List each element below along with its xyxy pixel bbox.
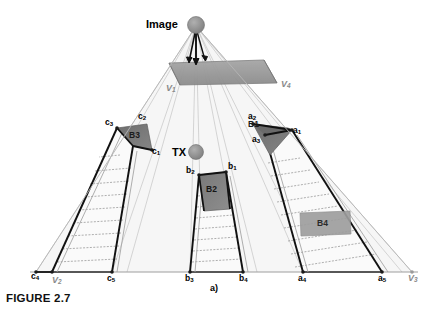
image-source-label: Image <box>146 19 178 30</box>
vertex-label-c4: c4 <box>31 272 39 281</box>
vertex-label-b2: b2 <box>186 166 195 175</box>
tx-node <box>189 145 204 160</box>
vertex-label-a3: a3 <box>252 135 260 144</box>
view-label-v2: V2 <box>52 276 62 286</box>
view-label-v3: V3 <box>408 274 418 284</box>
vertex-label-b4: b4 <box>239 274 248 283</box>
vertex-label-a4: a4 <box>298 274 306 283</box>
figure-container: Image TX V1 V4 V2 V3 c3 c2 c1 c4 c5 b2 b… <box>0 0 429 315</box>
vertex-label-a1: a1 <box>293 126 301 135</box>
view-plane <box>169 60 277 85</box>
vertex-label-c5: c5 <box>107 274 115 283</box>
image-source-node <box>188 17 205 34</box>
vertex-label-c1: c1 <box>152 147 160 156</box>
vertex-label-b1: b1 <box>228 162 237 171</box>
block-label-B4: B4 <box>317 219 328 228</box>
vertex-label-c2: c2 <box>138 112 146 121</box>
block-label-B3: B3 <box>129 131 140 140</box>
figure-caption: FIGURE 2.7 <box>6 292 71 304</box>
view-label-v1: V1 <box>166 84 176 94</box>
ray-tracing-diagram <box>0 0 429 290</box>
block-label-B1: B1 <box>248 120 259 129</box>
vertex-label-c3: c3 <box>105 118 113 127</box>
subfigure-label: a) <box>210 284 218 293</box>
view-label-v4: V4 <box>281 80 291 90</box>
vertex-label-b3: b3 <box>185 274 194 283</box>
block-label-B2: B2 <box>206 185 217 194</box>
tx-label: TX <box>172 147 186 158</box>
vertex-label-a5: a5 <box>378 274 386 283</box>
